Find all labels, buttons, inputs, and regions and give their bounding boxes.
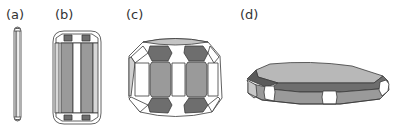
crystal-d-plate (247, 62, 389, 104)
crystal-c-polyhedron (129, 39, 222, 117)
crystal-habits-figure (0, 0, 401, 139)
crystal-a-needle (14, 27, 21, 121)
crystal-b-prism (53, 31, 101, 124)
